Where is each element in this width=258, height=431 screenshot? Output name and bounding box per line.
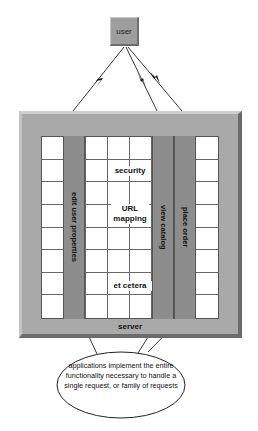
callout-text: applications implement the entire functi… <box>62 361 180 391</box>
